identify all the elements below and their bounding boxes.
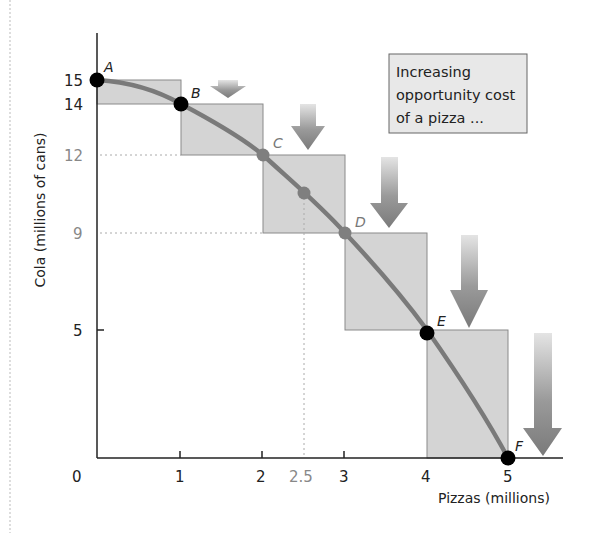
x-axis-title: Pizzas (millions) xyxy=(438,490,550,506)
y-tick-12: 12 xyxy=(64,147,83,165)
arrow-down-icon xyxy=(370,157,408,228)
point-label-e: E xyxy=(437,313,446,329)
point-c xyxy=(257,149,270,162)
arrow-down-icon xyxy=(523,333,562,456)
arrow-down-icon xyxy=(450,235,488,328)
point-b xyxy=(174,97,189,112)
note-line-2: opportunity cost xyxy=(396,87,515,103)
point-label-b: B xyxy=(191,85,201,101)
y-tick-14: 14 xyxy=(64,96,83,114)
y-tick-15: 15 xyxy=(64,72,83,90)
point-f xyxy=(501,451,516,466)
y-tick-5: 5 xyxy=(73,322,83,340)
x-tick-4: 4 xyxy=(421,468,431,486)
origin-label: 0 xyxy=(72,468,82,486)
point-e xyxy=(420,326,435,341)
x-tick-2: 2 xyxy=(256,468,266,486)
note-box: Increasing opportunity cost of a pizza .… xyxy=(389,54,527,133)
x-tick-1: 1 xyxy=(175,468,185,486)
point-label-f: F xyxy=(515,438,524,454)
arrow-down-icon xyxy=(210,80,246,98)
point-midpoint xyxy=(298,187,311,200)
point-label-c: C xyxy=(273,135,283,151)
cost-box-a-b xyxy=(97,80,181,104)
point-d xyxy=(339,227,352,240)
point-label-d: D xyxy=(355,214,366,230)
point-label-a: A xyxy=(103,59,114,75)
note-line-1: Increasing xyxy=(396,64,471,80)
ppf-chart: A B C D E F 15 14 12 9 5 0 1 2 2.5 3 4 5… xyxy=(0,0,590,533)
y-tick-9: 9 xyxy=(73,225,83,243)
x-tick-5: 5 xyxy=(503,468,513,486)
y-axis-title: Cola (millions of cans) xyxy=(32,133,48,288)
x-tick-2-5: 2.5 xyxy=(289,468,313,486)
note-line-3: of a pizza ... xyxy=(396,110,484,126)
point-a xyxy=(90,73,105,88)
arrow-down-icon xyxy=(291,104,325,150)
x-tick-3: 3 xyxy=(339,468,349,486)
